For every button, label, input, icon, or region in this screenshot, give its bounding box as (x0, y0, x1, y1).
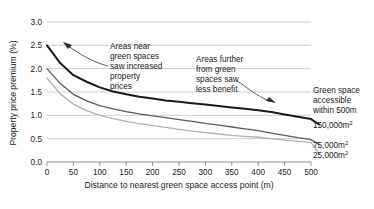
annotation-areas-further-line-2: from green (196, 65, 236, 74)
x-tick-label-350: 350 (225, 168, 239, 177)
annotation-areas-near-line-4: property (110, 72, 141, 81)
line-chart: 0.00.51.01.52.02.53.0 050100150200250300… (0, 0, 374, 209)
legend-label-75000: 75,000m2 (313, 140, 348, 150)
y-axis-title: Property price premium (%) (8, 40, 18, 145)
legend-heading-line-2: accessible (313, 96, 352, 105)
annotation-areas-further-line-1: Areas further (196, 55, 244, 64)
annotation-areas-further-line-4: less benefit (196, 85, 238, 94)
x-tick-label-450: 450 (278, 168, 292, 177)
legend-heading-line-3: within 500m (312, 106, 357, 115)
x-tick-label-300: 300 (199, 168, 213, 177)
legend-heading-line-1: Green space (313, 86, 360, 95)
x-axis-title: Distance to nearest green space access p… (84, 180, 273, 190)
x-tick-label-150: 150 (119, 168, 133, 177)
y-tick-label-0.0: 0.0 (31, 158, 43, 167)
y-tick-label-1.5: 1.5 (31, 88, 43, 97)
annotation-areas-near-line-1: Areas near (110, 42, 150, 51)
x-tick-label-100: 100 (93, 168, 107, 177)
x-tick-label-500: 500 (304, 168, 318, 177)
chart-container: 0.00.51.01.52.02.53.0 050100150200250300… (0, 0, 374, 209)
y-tick-label-2.5: 2.5 (31, 41, 43, 50)
x-tick-label-400: 400 (251, 168, 265, 177)
annotation-areas-further-line-3: spaces saw (196, 75, 239, 84)
legend-label-150000: 150,000m2 (313, 120, 353, 130)
x-tick-label-200: 200 (146, 168, 160, 177)
annotation-areas-near-line-3: saw increased (110, 62, 163, 71)
x-tick-label-0: 0 (45, 168, 50, 177)
annotation-areas-near-line-2: green spaces (110, 52, 159, 61)
annotation-areas-near-line-5: prices (110, 82, 132, 91)
legend-label-25000: 25,000m2 (313, 150, 348, 160)
x-tick-label-250: 250 (172, 168, 186, 177)
x-tick-label-50: 50 (69, 168, 79, 177)
y-tick-label-0.5: 0.5 (31, 135, 43, 144)
y-tick-label-2.0: 2.0 (31, 65, 43, 74)
y-tick-label-1.0: 1.0 (31, 111, 43, 120)
y-tick-label-3.0: 3.0 (31, 18, 43, 27)
